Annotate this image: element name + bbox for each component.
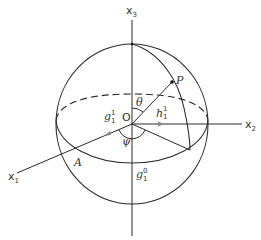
- g10-sub: 1: [143, 175, 147, 183]
- g11-arrow-icon: [104, 131, 111, 136]
- theta-label: θ: [136, 96, 143, 109]
- radius-to-equator: [132, 124, 190, 150]
- g11-label: g: [104, 110, 111, 123]
- x2-label: x2: [245, 118, 256, 133]
- h11-arrow-icon: [158, 122, 164, 127]
- h11-sub: 1: [163, 113, 167, 121]
- g10-label: g: [136, 168, 143, 181]
- point-P-label: P: [175, 74, 184, 87]
- sphere-diagram: x3 x2 x1 O P A θ ψ g 1 1 h 1 1 g 0 1: [0, 0, 261, 240]
- g11-sup: 1: [111, 109, 115, 117]
- origin-label: O: [122, 111, 131, 124]
- x1-label: x1: [8, 170, 19, 185]
- x3-label: x3: [126, 4, 137, 19]
- point-A-label: A: [73, 156, 82, 169]
- g11-sub: 1: [111, 117, 115, 125]
- psi-label: ψ: [122, 135, 131, 148]
- h11-sup: 1: [163, 105, 167, 113]
- g10-sup: 0: [143, 167, 147, 175]
- north-pole-dot: [131, 43, 134, 46]
- point-P-dot: [170, 80, 174, 84]
